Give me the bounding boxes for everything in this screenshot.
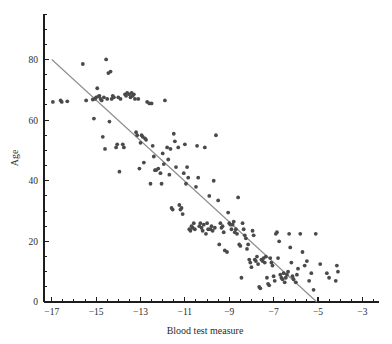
data-point <box>211 229 215 233</box>
data-point <box>203 145 207 149</box>
data-point <box>169 147 173 151</box>
data-point <box>263 261 267 265</box>
data-point <box>151 144 155 148</box>
x-axis-title: Blood test measure <box>167 325 244 336</box>
data-point <box>136 97 140 101</box>
data-point <box>240 276 244 280</box>
data-point <box>119 97 123 101</box>
data-point <box>181 212 185 216</box>
data-point <box>193 227 197 231</box>
data-point <box>182 171 186 175</box>
data-point <box>135 133 139 137</box>
data-point <box>248 261 252 265</box>
data-point <box>167 173 171 177</box>
regression-fit-line <box>52 59 317 302</box>
data-point <box>196 176 200 180</box>
data-point <box>303 264 307 268</box>
data-point <box>156 167 160 171</box>
x-tick-label: −3 <box>357 307 367 317</box>
x-tick-label: −11 <box>178 307 193 317</box>
scatter-plot-figure: −17−15−13−11−9−7−5−3 020406080 Blood tes… <box>0 0 392 344</box>
data-point <box>325 271 329 275</box>
data-point <box>162 162 166 166</box>
data-point <box>241 221 245 225</box>
data-point <box>287 232 291 236</box>
x-tick-label: −9 <box>224 307 234 317</box>
data-point <box>254 259 258 263</box>
data-point <box>202 223 206 227</box>
x-tick-label: −7 <box>269 307 279 317</box>
data-point <box>234 227 238 231</box>
data-point <box>163 99 167 103</box>
data-point <box>218 221 222 225</box>
data-point <box>177 203 181 207</box>
data-point <box>289 261 293 265</box>
x-tick-label: −17 <box>44 307 59 317</box>
data-point <box>222 230 226 234</box>
data-point <box>245 247 249 251</box>
plot-canvas: −17−15−13−11−9−7−5−3 020406080 Blood tes… <box>0 0 392 344</box>
data-point <box>103 147 107 151</box>
data-point <box>101 135 105 139</box>
x-tick-label: −15 <box>89 307 104 317</box>
x-axis-tick-labels: −17−15−13−11−9−7−5−3 <box>44 307 367 317</box>
x-tick-label: −5 <box>313 307 323 317</box>
data-point <box>283 280 287 284</box>
data-point <box>108 120 112 124</box>
data-point <box>104 58 108 62</box>
data-point <box>318 262 322 266</box>
data-point <box>216 199 220 203</box>
data-point <box>95 86 99 90</box>
data-point <box>213 226 217 230</box>
data-point <box>217 243 221 247</box>
data-point <box>251 229 255 233</box>
data-point <box>133 97 137 101</box>
scatter-points <box>51 58 340 292</box>
data-point <box>327 276 331 280</box>
data-point <box>335 264 339 268</box>
data-point <box>268 256 272 260</box>
data-point <box>298 232 302 236</box>
data-point <box>132 92 136 96</box>
data-point <box>246 243 250 247</box>
data-point <box>225 250 229 254</box>
data-point <box>265 276 269 280</box>
data-point <box>277 239 281 243</box>
data-point <box>152 155 156 159</box>
data-point <box>172 132 176 136</box>
data-point <box>256 262 260 266</box>
data-point <box>205 221 209 225</box>
data-point <box>192 221 196 225</box>
data-point <box>204 232 208 236</box>
data-point <box>276 256 280 260</box>
data-point <box>334 279 338 283</box>
data-point <box>184 182 188 186</box>
data-point <box>255 255 259 259</box>
y-axis-title: Age <box>9 149 20 166</box>
data-point <box>159 171 163 175</box>
data-point <box>161 152 165 156</box>
data-point <box>150 102 154 106</box>
data-point <box>244 236 248 240</box>
data-point <box>189 229 193 233</box>
data-point <box>102 95 106 99</box>
data-point <box>294 280 298 284</box>
y-tick-label: 80 <box>29 55 39 65</box>
data-point <box>242 227 246 231</box>
data-point <box>212 179 216 183</box>
x-tick-label: −13 <box>133 307 148 317</box>
data-point <box>176 145 180 149</box>
data-point <box>180 206 184 210</box>
data-point <box>173 139 177 143</box>
y-tick-label: 60 <box>29 116 39 126</box>
data-point <box>149 182 153 186</box>
data-point <box>160 182 164 186</box>
data-point <box>122 145 126 149</box>
y-tick-label: 40 <box>29 176 39 186</box>
data-point <box>272 274 276 278</box>
data-point <box>65 99 69 103</box>
data-point <box>235 232 239 236</box>
data-point <box>199 221 203 225</box>
data-point <box>271 264 275 268</box>
data-point <box>292 277 296 281</box>
